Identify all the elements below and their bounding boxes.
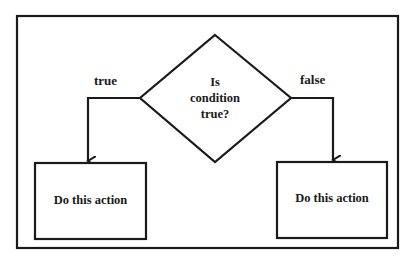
condition-line-1: Is bbox=[165, 74, 265, 90]
true-branch-arrow bbox=[88, 98, 140, 161]
condition-line-3: true? bbox=[165, 106, 265, 122]
true-branch-label: true bbox=[94, 73, 117, 89]
false-branch-arrow bbox=[291, 98, 333, 160]
false-action-text: Do this action bbox=[277, 191, 387, 206]
true-action-text: Do this action bbox=[35, 193, 146, 208]
false-branch-label: false bbox=[300, 72, 325, 88]
decision-condition-text: Is condition true? bbox=[165, 74, 265, 122]
flowchart-canvas bbox=[0, 0, 415, 260]
condition-line-2: condition bbox=[165, 90, 265, 106]
